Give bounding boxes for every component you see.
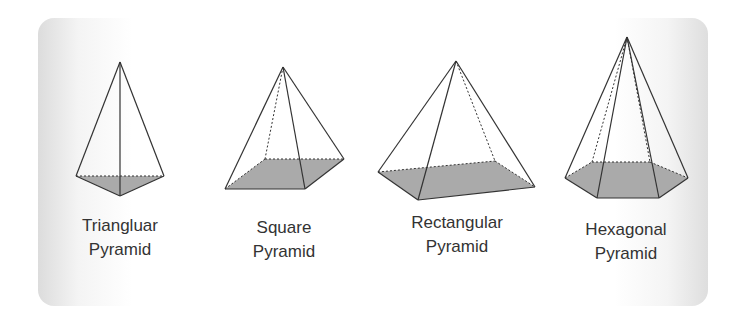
hidden-edge xyxy=(592,37,627,162)
visible-edge xyxy=(120,62,164,176)
label-line-1: Triangluar xyxy=(50,214,190,238)
hidden-edge xyxy=(456,61,495,161)
square-pyramid-label: Square Pyramid xyxy=(214,216,354,264)
visible-edge xyxy=(565,37,627,178)
rectangular-pyramid-label: Rectangular Pyramid xyxy=(387,211,527,259)
square-pyramid-figure xyxy=(225,67,344,189)
visible-edge xyxy=(283,67,344,159)
base-face xyxy=(225,159,344,189)
hidden-edge xyxy=(265,67,283,159)
visible-edge xyxy=(378,61,456,172)
triangular-pyramid-figure xyxy=(76,62,164,196)
label-line-2: Pyramid xyxy=(556,242,696,266)
hexagonal-pyramid-label: Hexagonal Pyramid xyxy=(556,218,696,266)
pyramids-drawing xyxy=(0,0,746,315)
triangular-pyramid-label: Triangluar Pyramid xyxy=(50,214,190,262)
label-line-1: Square xyxy=(214,216,354,240)
label-line-1: Rectangular xyxy=(387,211,527,235)
base-face xyxy=(378,161,535,200)
visible-edge xyxy=(76,62,120,176)
label-line-2: Pyramid xyxy=(387,235,527,259)
label-line-1: Hexagonal xyxy=(556,218,696,242)
label-line-2: Pyramid xyxy=(214,240,354,264)
hexagonal-pyramid-figure xyxy=(565,37,688,198)
visible-edge xyxy=(627,37,688,178)
label-line-2: Pyramid xyxy=(50,238,190,262)
rectangular-pyramid-figure xyxy=(378,61,535,200)
